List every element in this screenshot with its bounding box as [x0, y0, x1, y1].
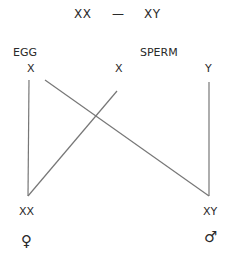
- sperm-x-to-female-line: [28, 91, 117, 196]
- male-offspring-genotype: XY: [203, 206, 217, 218]
- female-offspring-genotype: XX: [19, 206, 34, 218]
- egg-x-to-female-line: [28, 80, 29, 196]
- egg-x-to-male-line: [45, 80, 209, 196]
- male-symbol-icon: ♂: [204, 229, 217, 245]
- female-symbol-icon: ♀: [21, 233, 32, 249]
- cross-lines: [0, 0, 234, 275]
